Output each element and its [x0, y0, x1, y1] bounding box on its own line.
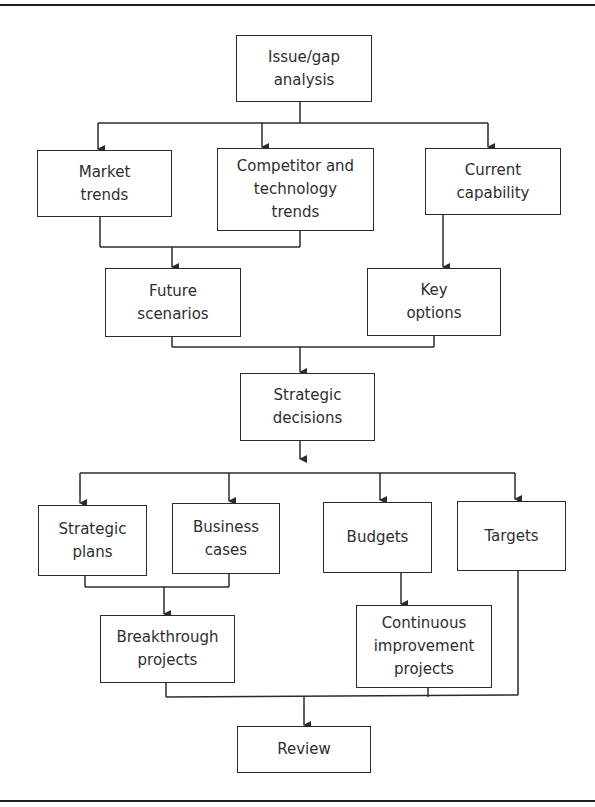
node-label: Targets [484, 525, 538, 548]
node-current-capability: Current capability [425, 148, 561, 215]
node-issue-gap-analysis: Issue/gap analysis [236, 35, 372, 102]
node-continuous-improvement-projects: Continuous improvement projects [356, 605, 492, 688]
node-market-trends: Market trends [37, 150, 172, 217]
node-budgets: Budgets [323, 502, 432, 573]
node-label: Continuous improvement projects [374, 612, 475, 681]
node-future-scenarios: Future scenarios [105, 268, 241, 337]
node-targets: Targets [457, 501, 566, 571]
node-strategic-decisions: Strategic decisions [240, 373, 375, 441]
node-label: Strategic decisions [273, 384, 343, 430]
node-label: Strategic plans [59, 518, 127, 564]
node-label: Key options [406, 279, 461, 325]
node-competitor-technology-trends: Competitor and technology trends [217, 148, 374, 231]
node-label: Future scenarios [137, 280, 208, 326]
node-label: Breakthrough projects [116, 626, 218, 672]
node-strategic-plans: Strategic plans [38, 505, 147, 576]
node-breakthrough-projects: Breakthrough projects [100, 615, 235, 683]
node-label: Current capability [457, 159, 530, 205]
node-label: Market trends [79, 161, 131, 207]
node-label: Competitor and technology trends [237, 155, 354, 224]
node-label: Review [277, 738, 331, 761]
node-label: Business cases [193, 516, 259, 562]
node-key-options: Key options [367, 268, 501, 336]
node-business-cases: Business cases [172, 503, 280, 574]
node-review: Review [237, 726, 371, 773]
node-label: Budgets [347, 526, 409, 549]
node-label: Issue/gap analysis [268, 46, 340, 92]
